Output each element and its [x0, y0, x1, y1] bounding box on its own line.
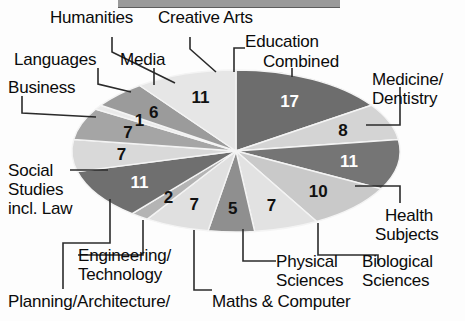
label-planning: Planning/Architecture/ [8, 292, 170, 311]
pie-slice-value: 7 [117, 145, 126, 164]
leader-creative-arts [190, 37, 216, 72]
pie-slice-value: 7 [190, 195, 199, 214]
label-education: Education [245, 32, 319, 51]
label-biological-sciences: Biological [362, 252, 433, 271]
pie-slice-value: 2 [164, 188, 173, 207]
label-health-subjects: Health [385, 206, 433, 225]
label-education-combined: Combined [263, 52, 339, 71]
leader-education [234, 48, 245, 72]
pie-slice-value: 10 [309, 182, 328, 201]
pie-slice-value: 11 [340, 152, 358, 171]
leader-maths [194, 230, 212, 290]
label-physical-sciences-2: Sciences [276, 271, 343, 290]
leader-physical [243, 229, 276, 261]
pie-slice-value: 17 [280, 92, 299, 111]
pie-slice-value: 7 [123, 123, 132, 142]
label-social-studies-2: Studies [8, 180, 63, 199]
label-maths-computer: Maths & Computer [212, 292, 351, 311]
label-humanities: Humanities [50, 8, 133, 27]
pie-slice-value: 11 [192, 88, 210, 107]
label-engineering: Engineering/ [78, 246, 171, 265]
pie-chart-figure: 1781110757211771611 Humanities Creative … [0, 0, 465, 321]
label-biological-sciences-2: Sciences [362, 271, 429, 290]
pie-slice-value: 8 [338, 121, 347, 140]
pie-slice-value: 1 [135, 111, 144, 130]
leader-languages [98, 68, 131, 92]
label-languages: Languages [14, 50, 96, 69]
label-creative-arts: Creative Arts [158, 8, 253, 27]
label-media: Media [120, 50, 165, 69]
label-medicine: Medicine/ [372, 70, 443, 89]
pie-slice-value: 11 [130, 173, 148, 192]
pie-slice-value: 7 [267, 196, 276, 215]
leader-business [22, 96, 96, 117]
pie-slice-value: 6 [149, 103, 158, 122]
label-social-studies: Social [8, 161, 53, 180]
pie-slice-value: 5 [228, 199, 237, 218]
label-business: Business [8, 78, 75, 97]
label-social-studies-3: incl. Law [8, 199, 72, 218]
label-physical-sciences: Physical [276, 252, 338, 271]
label-dentistry: Dentistry [372, 89, 437, 108]
label-health-subjects-2: Subjects [375, 225, 439, 244]
label-technology: Technology [78, 265, 162, 284]
